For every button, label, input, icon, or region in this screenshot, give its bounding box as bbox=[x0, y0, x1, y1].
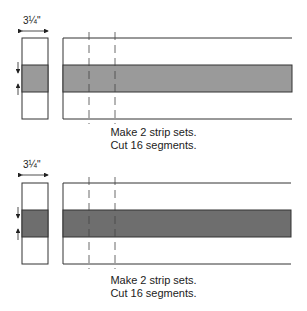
caption: Make 2 strip sets. Cut 16 segments. bbox=[0, 126, 307, 152]
caption-line: Make 2 strip sets. bbox=[0, 126, 307, 139]
caption-line: Cut 16 segments. bbox=[0, 139, 307, 152]
strip-set-diagrams bbox=[0, 0, 307, 311]
segment-block bbox=[22, 38, 48, 119]
caption-line: Make 2 strip sets. bbox=[0, 274, 307, 287]
segment-block bbox=[22, 183, 48, 264]
caption-line: Cut 16 segments. bbox=[0, 287, 307, 300]
strip-set-diagram-2 bbox=[18, 175, 291, 269]
caption: Make 2 strip sets. Cut 16 segments. bbox=[0, 274, 307, 300]
strip-set bbox=[63, 38, 292, 119]
dimension-label: 3¼" bbox=[23, 159, 40, 170]
dimension-label: 3¼" bbox=[23, 15, 40, 26]
strip-set bbox=[63, 183, 291, 264]
strip-set-diagram-1 bbox=[18, 31, 292, 124]
